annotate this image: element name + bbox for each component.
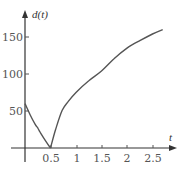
y-tick-label-50: 50 xyxy=(9,105,23,118)
d-of-t-curve xyxy=(25,30,163,148)
y-tick-label-100: 100 xyxy=(2,68,23,81)
x-axis-label: t xyxy=(169,131,173,143)
x-tick-label-0.5: 0.5 xyxy=(42,152,60,165)
x-tick-label-2.5: 2.5 xyxy=(144,152,162,165)
x-tick-label-1: 1 xyxy=(74,152,81,165)
x-tick-label-2: 2 xyxy=(124,152,131,165)
y-tick-label-150: 150 xyxy=(2,31,23,44)
y-axis-arrow-icon xyxy=(22,10,28,18)
chart: 150 100 50 0.5 1 1.5 2 2.5 d(t) t xyxy=(0,0,182,179)
y-axis-label: d(t) xyxy=(32,8,48,21)
x-tick-label-1.5: 1.5 xyxy=(93,152,111,165)
x-axis-arrow-icon xyxy=(169,145,177,151)
